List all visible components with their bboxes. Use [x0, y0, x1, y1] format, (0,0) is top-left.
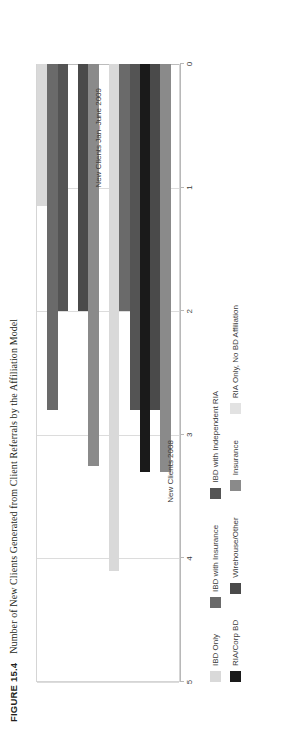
legend-swatch-icon: [210, 597, 221, 608]
axis-tick-5: [180, 681, 184, 682]
axis-tick-4: [180, 557, 184, 558]
legend-swatch-icon: [230, 583, 241, 594]
legend-swatch-icon: [210, 488, 221, 499]
legend-swatch-icon: [210, 671, 221, 682]
bar: [150, 64, 160, 410]
bar: [37, 64, 47, 206]
figure-canvas: FIGURE 15.4Number of New Clients Generat…: [0, 0, 292, 730]
category-label: New Clients 2008: [166, 440, 175, 503]
legend-swatch-icon: [230, 403, 241, 414]
legend-item[interactable]: IBD Only: [210, 634, 221, 682]
bar: [140, 64, 150, 472]
bar: [160, 64, 170, 472]
axis-tick-label-2: 2: [185, 309, 194, 313]
axis-tick-2: [180, 310, 184, 311]
bar: [78, 64, 88, 311]
legend-label: IBD with Insurance: [211, 525, 220, 592]
plot-area: [36, 64, 180, 682]
gridline-5: [37, 682, 179, 683]
bar: [47, 64, 57, 410]
legend-item[interactable]: IBD with Independent RIA: [210, 391, 221, 499]
bar: [119, 64, 129, 311]
legend-label: RIA Only, No BD Affiliation: [231, 305, 240, 398]
legend-item[interactable]: RIA Only, No BD Affiliation: [230, 305, 241, 414]
axis-tick-label-4: 4: [185, 556, 194, 560]
figure-caption: FIGURE 15.4Number of New Clients Generat…: [8, 22, 19, 722]
axis-tick-3: [180, 434, 184, 435]
axis-tick-label-5: 5: [185, 680, 194, 684]
bar-series-container: [37, 64, 179, 681]
category-label: New Clients Jan–June 2009: [94, 88, 103, 188]
bar: [109, 64, 119, 571]
axis-tick-0: [180, 63, 184, 64]
chart-legend: IBD OnlyIBD with InsuranceIBD with Indep…: [210, 42, 250, 682]
figure-number: FIGURE 15.4: [8, 663, 19, 722]
legend-label: IBD with Independent RIA: [211, 391, 220, 483]
legend-item[interactable]: Insurance: [230, 440, 241, 491]
legend-item[interactable]: RIA/Corp BD: [230, 620, 241, 682]
legend-swatch-icon: [230, 480, 241, 491]
axis-tick-1: [180, 187, 184, 188]
legend-row: IBD OnlyIBD with InsuranceIBD with Indep…: [210, 42, 221, 682]
legend-swatch-icon: [230, 671, 241, 682]
legend-label: Wirehouse/Other: [231, 517, 240, 577]
axis-tick-label-1: 1: [185, 185, 194, 189]
axis-tick-label-3: 3: [185, 433, 194, 437]
bar: [130, 64, 140, 410]
axis-tick-label-0: 0: [185, 62, 194, 66]
bar: [58, 64, 68, 311]
figure-caption-text: Number of New Clients Generated from Cli…: [8, 319, 19, 654]
legend-item[interactable]: Wirehouse/Other: [230, 517, 241, 593]
legend-row: RIA/Corp BDWirehouse/OtherInsuranceRIA O…: [230, 42, 241, 682]
legend-label: IBD Only: [211, 634, 220, 666]
legend-label: Insurance: [231, 440, 240, 475]
value-axis-line: [180, 63, 181, 682]
legend-item[interactable]: IBD with Insurance: [210, 525, 221, 608]
legend-label: RIA/Corp BD: [231, 620, 240, 666]
